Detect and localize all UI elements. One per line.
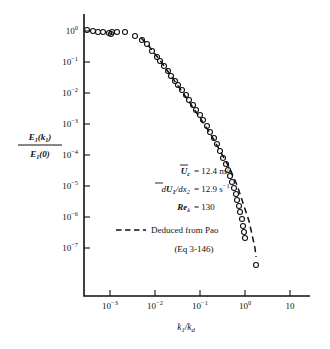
y-tick-label: 10−4 xyxy=(62,148,79,160)
y-tick-label: 10−7 xyxy=(62,241,79,253)
annotations-group: Uc = 12.4 m/s dU1/dx2 = 12.9 s−1 Reλ = 1… xyxy=(116,165,233,254)
data-point xyxy=(241,224,246,229)
data-point xyxy=(123,30,128,35)
annotation-reynolds-value: = 130 xyxy=(194,202,215,212)
spectrum-chart: 100 10−1 10−2 10−3 10−4 10−5 10−6 10−7 1… xyxy=(0,0,330,349)
x-tick-label: 10−1 xyxy=(192,299,208,311)
data-point xyxy=(169,74,174,79)
annotation-uc-symbol: Uc xyxy=(181,166,191,177)
data-point xyxy=(115,30,120,35)
data-point xyxy=(234,192,239,197)
data-point xyxy=(243,236,248,241)
y-tick-label: 10−2 xyxy=(62,86,78,98)
data-point xyxy=(240,217,245,222)
data-point xyxy=(158,59,163,64)
y-tick-label: 10−1 xyxy=(62,55,78,67)
data-point xyxy=(145,42,150,47)
y-tick-label: 100 xyxy=(66,24,78,36)
data-point xyxy=(91,29,96,34)
data-point xyxy=(218,149,223,154)
y-tick-label: 10−3 xyxy=(62,117,78,129)
x-axis-title: k1/kd xyxy=(177,322,195,333)
x-tick-label: 100 xyxy=(239,299,251,311)
data-point xyxy=(133,34,138,39)
data-point xyxy=(85,28,90,33)
data-point xyxy=(187,98,192,103)
data-point xyxy=(101,30,106,35)
x-tick-label: 10−3 xyxy=(102,299,118,311)
data-point xyxy=(162,64,167,69)
data-point xyxy=(238,210,243,215)
data-point xyxy=(242,230,247,235)
x-tick-label: 10−2 xyxy=(147,299,163,311)
x-axis-title-text: k1/kd xyxy=(177,322,195,333)
annotation-reynolds-symbol: Reλ xyxy=(176,202,190,213)
x-axis-tick-labels: 10−3 10−2 10−1 100 10 xyxy=(102,299,295,311)
data-point xyxy=(230,180,235,185)
x-tick-label: 10 xyxy=(286,301,296,311)
y-axis-title-numerator: E1(k1) xyxy=(28,132,52,143)
x-axis-ticks xyxy=(110,290,290,296)
y-axis-ticks xyxy=(84,31,90,248)
equation-reference: (Eq 3-146) xyxy=(174,244,213,254)
data-point xyxy=(208,130,213,135)
data-point xyxy=(96,30,101,35)
data-point xyxy=(235,198,240,203)
data-point xyxy=(237,204,242,209)
legend-label: Deduced from Pao xyxy=(151,225,219,235)
annotation-shear-value: = 12.9 s−1 xyxy=(194,182,230,194)
figure-container: 100 10−1 10−2 10−3 10−4 10−5 10−6 10−7 1… xyxy=(0,0,330,349)
y-axis-title: E1(k1) E1(0) xyxy=(18,132,62,160)
y-axis-tick-labels: 100 10−1 10−2 10−3 10−4 10−5 10−6 10−7 xyxy=(62,24,79,253)
data-point xyxy=(254,263,259,268)
y-tick-label: 10−6 xyxy=(62,210,78,222)
y-axis-title-denominator: E1(0) xyxy=(29,149,50,160)
data-point xyxy=(198,113,203,118)
annotation-shear-symbol: dU1/dx2 xyxy=(162,184,191,195)
annotation-uc-value: = 12.4 m/s xyxy=(194,166,233,176)
data-point xyxy=(232,186,237,191)
y-tick-label: 10−5 xyxy=(62,179,78,191)
